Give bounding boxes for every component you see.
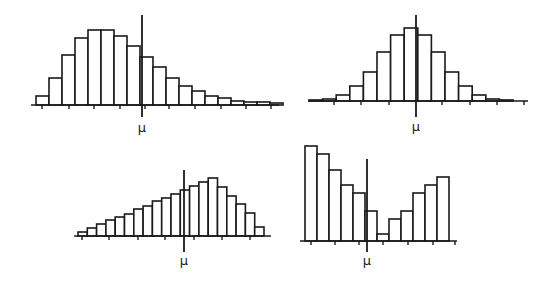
mean-label: μ	[138, 120, 146, 135]
histogram-bar	[401, 211, 413, 241]
histogram-bar	[329, 170, 341, 241]
histogram-bar	[179, 86, 192, 105]
histogram-bimodal: μ	[300, 146, 457, 268]
histogram-bar	[62, 55, 75, 105]
histogram-bar	[336, 95, 350, 101]
histogram-bar	[377, 52, 391, 101]
histogram-bar	[49, 78, 62, 105]
histogram-bar	[171, 194, 180, 236]
histogram-bar	[88, 30, 101, 105]
histogram-bar	[218, 98, 231, 105]
histogram-bar	[350, 86, 364, 101]
histogram-bar	[472, 95, 486, 101]
histogram-bar	[97, 224, 106, 236]
histogram-bar	[341, 185, 353, 241]
histogram-bar	[459, 86, 473, 101]
histogram-bar	[75, 38, 88, 105]
histogram-bar	[115, 217, 124, 236]
histogram-symmetric: μ	[308, 15, 528, 134]
histogram-bar	[162, 198, 171, 236]
histogram-bar	[391, 35, 405, 101]
histogram-bar	[114, 36, 127, 105]
histogram-bar	[431, 52, 445, 101]
histograms-figure: μ μ μ μ	[0, 0, 552, 281]
histogram-bar	[36, 96, 49, 105]
histogram-left-skewed: μ	[74, 170, 271, 268]
histogram-bar	[192, 91, 205, 105]
histogram-bar	[208, 178, 217, 236]
histogram-right-skewed: μ	[31, 15, 283, 135]
mean-label: μ	[363, 253, 371, 268]
histogram-bar	[245, 213, 254, 236]
histogram-bar	[106, 220, 115, 236]
histogram-bar	[127, 46, 140, 105]
histogram-bar	[125, 214, 134, 236]
mean-label: μ	[180, 253, 188, 268]
histogram-bar	[236, 204, 245, 236]
histogram-bar	[413, 193, 425, 241]
histogram-bar	[437, 177, 449, 241]
histogram-bar	[317, 154, 329, 241]
histogram-bar	[180, 190, 189, 236]
histogram-bar	[152, 201, 161, 236]
histogram-bar	[218, 187, 227, 236]
histogram-bar	[153, 67, 166, 105]
histogram-bar	[389, 219, 401, 241]
histogram-bar	[166, 78, 179, 105]
histogram-bar	[190, 186, 199, 236]
histogram-bar	[87, 228, 96, 236]
histogram-bar	[205, 96, 218, 105]
histogram-bar	[305, 146, 317, 241]
histogram-bar	[425, 185, 437, 241]
histogram-bar	[199, 182, 208, 236]
histogram-bar	[101, 30, 114, 105]
histogram-bar	[353, 193, 365, 241]
histogram-bar	[418, 35, 432, 101]
histogram-bar	[377, 234, 389, 241]
histogram-bar	[255, 227, 264, 236]
mean-label: μ	[412, 119, 420, 134]
histogram-bar	[134, 209, 143, 236]
histogram-bar	[143, 206, 152, 236]
histogram-bar	[363, 72, 377, 101]
histogram-bar	[227, 196, 236, 236]
histogram-bar	[445, 72, 459, 101]
